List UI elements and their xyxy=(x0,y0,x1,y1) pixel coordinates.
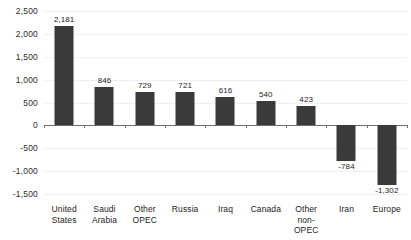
bar-group[interactable]: -784 xyxy=(326,0,366,200)
y-tick-label: 0 xyxy=(33,120,38,130)
x-category-label: Othernon-OPEC xyxy=(286,204,326,236)
bar-value-label: 2,181 xyxy=(54,15,75,24)
plot-area: 2,181846729721616540423-784-1,302 xyxy=(44,0,407,200)
y-axis: 2,5002,0001,5001,0005000-500-1,000-1,500 xyxy=(0,0,44,200)
x-tick-mark xyxy=(407,125,408,128)
x-label-line: Iraq xyxy=(205,204,245,215)
x-label-line: OPEC xyxy=(125,215,165,226)
bar-group[interactable]: 540 xyxy=(246,0,286,200)
x-label-line: Other xyxy=(286,204,326,215)
x-category-label: Canada xyxy=(246,204,286,215)
x-label-line: non-OPEC xyxy=(286,215,326,236)
y-tick-label: -1,500 xyxy=(13,189,38,199)
y-tick-label: -500 xyxy=(20,143,38,153)
bar-value-label: 721 xyxy=(178,81,192,90)
bar[interactable] xyxy=(95,87,114,126)
bar[interactable] xyxy=(297,106,316,125)
bar[interactable] xyxy=(135,92,154,125)
bar-value-label: 616 xyxy=(219,86,233,95)
y-tick-label: 1,500 xyxy=(16,52,38,62)
x-label-line: Arabia xyxy=(84,215,124,226)
bar[interactable] xyxy=(216,97,235,125)
x-category-label: UnitedStates xyxy=(44,204,84,225)
x-category-label: Iran xyxy=(326,204,366,215)
y-tick-label: 1,000 xyxy=(16,75,38,85)
x-label-line: United xyxy=(44,204,84,215)
bar-group[interactable]: 729 xyxy=(125,0,165,200)
bar[interactable] xyxy=(256,101,275,126)
x-axis-labels: UnitedStatesSaudiArabiaOtherOPECRussiaIr… xyxy=(44,204,407,240)
bar-value-label: -784 xyxy=(338,162,354,171)
bar-value-label: -1,302 xyxy=(375,186,398,195)
x-label-line: Saudi xyxy=(84,204,124,215)
x-category-label: OtherOPEC xyxy=(125,204,165,225)
x-category-label: Russia xyxy=(165,204,205,215)
x-label-line: Iran xyxy=(326,204,366,215)
bar-value-label: 540 xyxy=(259,90,273,99)
x-label-line: Europe xyxy=(367,204,407,215)
bar-group[interactable]: -1,302 xyxy=(367,0,407,200)
x-category-label: Iraq xyxy=(205,204,245,215)
bar-group[interactable]: 721 xyxy=(165,0,205,200)
bar[interactable] xyxy=(337,125,356,161)
bar-group[interactable]: 846 xyxy=(84,0,124,200)
bar-chart: 2,5002,0001,5001,0005000-500-1,000-1,500… xyxy=(0,0,411,240)
bar-value-label: 729 xyxy=(138,81,152,90)
x-label-line: States xyxy=(44,215,84,226)
bar[interactable] xyxy=(176,92,195,125)
bar-group[interactable]: 2,181 xyxy=(44,0,84,200)
x-label-line: Canada xyxy=(246,204,286,215)
x-category-label: Europe xyxy=(367,204,407,215)
x-label-line: Russia xyxy=(165,204,205,215)
bar[interactable] xyxy=(55,26,74,126)
bar-group[interactable]: 616 xyxy=(205,0,245,200)
y-tick-label: 500 xyxy=(23,98,38,108)
y-tick-label: 2,500 xyxy=(16,6,38,16)
bar[interactable] xyxy=(377,125,396,185)
y-tick-label: 2,000 xyxy=(16,29,38,39)
x-category-label: SaudiArabia xyxy=(84,204,124,225)
y-tick-label: -1,000 xyxy=(13,166,38,176)
bar-value-label: 846 xyxy=(98,76,112,85)
x-label-line: Other xyxy=(125,204,165,215)
x-tick-mark xyxy=(44,125,45,128)
bar-group[interactable]: 423 xyxy=(286,0,326,200)
bar-value-label: 423 xyxy=(299,95,313,104)
